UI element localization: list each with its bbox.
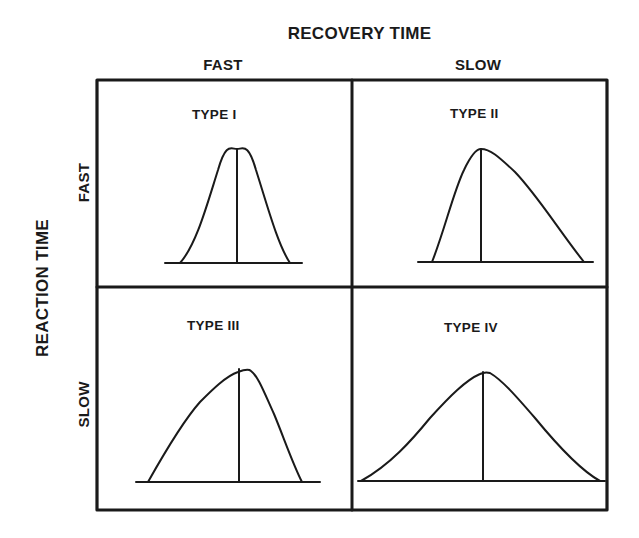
type-iii-label: TYPE III [187,318,240,333]
type-i-label: TYPE I [192,107,237,122]
type-ii-label: TYPE II [450,106,499,121]
type-iv-label: TYPE IV [444,320,498,335]
quadrant-grid [0,0,639,538]
type-iv-curve [358,372,605,481]
type-iii-curve [136,369,320,482]
type-ii-curve [418,149,593,262]
type-i-curve [165,148,302,263]
